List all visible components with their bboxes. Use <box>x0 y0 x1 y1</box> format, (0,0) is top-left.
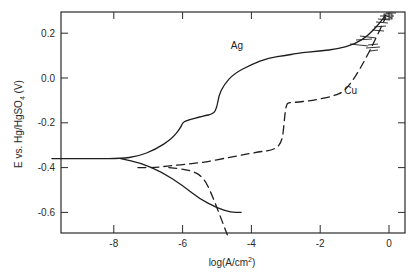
x-tick-label: -6 <box>178 238 187 249</box>
curve-label-cu: Cu <box>344 85 357 96</box>
y-tick-label: 0.0 <box>41 73 55 84</box>
series-ag-cathodic <box>121 159 241 213</box>
y-axis-title: E vs. Hg/HgSO4 (V) <box>13 80 26 168</box>
y-tick-label: -0.2 <box>38 117 56 128</box>
y-tick-label: -0.4 <box>38 162 56 173</box>
series-layer <box>52 15 386 235</box>
y-tick-label: 0.2 <box>41 28 55 39</box>
x-axis-title: log(A/cm2) <box>209 256 256 268</box>
x-axis-ticks: -8-6-4-20 <box>109 12 392 249</box>
polarization-chart: 0.20.0-0.2-0.4-0.6 -8-6-4-20 Ag Cu log(A… <box>0 0 415 276</box>
y-axis-ticks: 0.20.0-0.2-0.4-0.6 <box>38 28 405 218</box>
series-ag-anodic <box>52 15 386 158</box>
x-tick-label: 0 <box>386 238 392 249</box>
x-tick-label: -4 <box>247 238 256 249</box>
x-tick-label: -2 <box>316 238 325 249</box>
y-tick-label: -0.6 <box>38 207 56 218</box>
curve-label-ag: Ag <box>231 40 243 51</box>
series-cu-cathodic <box>169 168 228 235</box>
x-tick-label: -8 <box>109 238 118 249</box>
